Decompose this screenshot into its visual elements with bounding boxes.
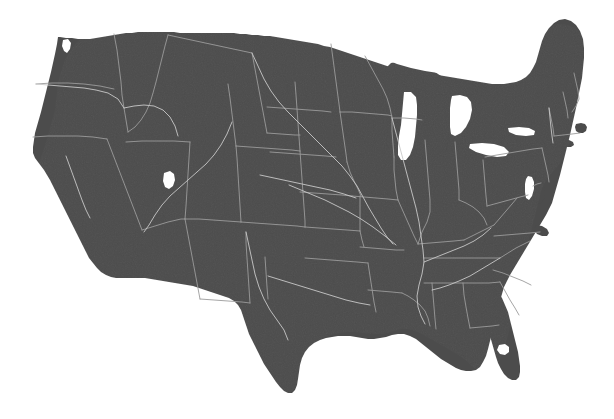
- cape-cod: [575, 123, 587, 133]
- us-map-figure: [0, 0, 614, 419]
- us-map-svg: [0, 0, 614, 419]
